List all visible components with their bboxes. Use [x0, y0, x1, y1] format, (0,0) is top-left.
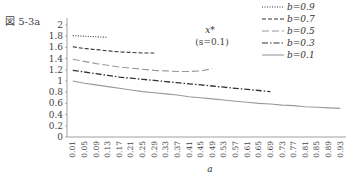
- x-tick-label: 0.17: [115, 141, 124, 158]
- x-tick-label: 0.61: [243, 141, 252, 158]
- x-tick-label: 0.29: [150, 141, 159, 158]
- x-tick-label: 0.81: [301, 141, 310, 158]
- y-axis: 00.20.40.60.811.21.41.61.82: [49, 18, 67, 142]
- x-tick-label: 0.21: [126, 141, 135, 158]
- x-tick-label: 0.33: [161, 141, 170, 158]
- y-tick-label: 0.2: [49, 121, 63, 131]
- x-tick-label: 0.53: [219, 141, 228, 158]
- x-tick-label: 0.73: [278, 141, 287, 158]
- x-tick-label: 0.93: [336, 141, 345, 158]
- legend-label: b=0.3: [287, 38, 315, 48]
- legend-label: b=0.1: [287, 50, 315, 60]
- series-line-b-0-5: [73, 59, 213, 71]
- series-line-b-0-3: [73, 70, 271, 91]
- y-tick-label: 0.6: [49, 98, 64, 108]
- y-tick-label: 1.4: [49, 54, 64, 64]
- x-tick-label: 0.25: [138, 141, 147, 158]
- x-tick-label: 0.45: [196, 141, 205, 158]
- x-tick-label: 0.37: [173, 141, 182, 158]
- legend-label: b=0.7: [287, 14, 315, 24]
- x-tick-label: 0.49: [208, 141, 217, 158]
- y-tick-label: 2: [57, 20, 63, 30]
- x-tick-label: 0.89: [324, 141, 333, 158]
- x-tick-label: 0.77: [289, 141, 298, 158]
- annotation: x* (s=0.1): [195, 25, 229, 47]
- x-tick-label: 0.41: [185, 141, 194, 158]
- y-tick-label: 1.2: [49, 65, 63, 75]
- y-tick-label: 0.8: [49, 87, 64, 97]
- annotation-xstar: x*: [205, 25, 215, 35]
- annotation-s: (s=0.1): [195, 37, 229, 47]
- legend-label: b=0.5: [287, 26, 315, 36]
- x-tick-label: 0.09: [92, 141, 101, 158]
- x-tick-label: 0.65: [254, 141, 263, 158]
- legend: b=0.9b=0.7b=0.5b=0.3b=0.1: [262, 2, 315, 60]
- y-tick-label: 1: [57, 76, 63, 86]
- series-line-b-0-9: [73, 36, 108, 38]
- x-tick-label: 0.05: [80, 141, 89, 158]
- y-tick-label: 1.8: [49, 31, 64, 41]
- y-tick-label: 1.6: [49, 42, 64, 52]
- y-tick-label: 0: [57, 132, 63, 142]
- line-chart: 00.20.40.60.811.21.41.61.82 0.010.050.09…: [0, 0, 356, 179]
- x-tick-label: 0.01: [68, 141, 77, 158]
- y-tick-label: 0.4: [49, 110, 64, 120]
- x-tick-label: 0.69: [266, 141, 275, 158]
- x-axis-label: a: [207, 164, 212, 174]
- x-tick-label: 0.57: [231, 141, 240, 158]
- x-tick-label: 0.85: [312, 141, 321, 158]
- series-line-b-0-7: [73, 47, 154, 53]
- legend-label: b=0.9: [287, 2, 315, 12]
- x-axis: 0.010.050.090.130.170.210.250.290.330.37…: [67, 137, 346, 158]
- x-tick-label: 0.13: [103, 141, 112, 158]
